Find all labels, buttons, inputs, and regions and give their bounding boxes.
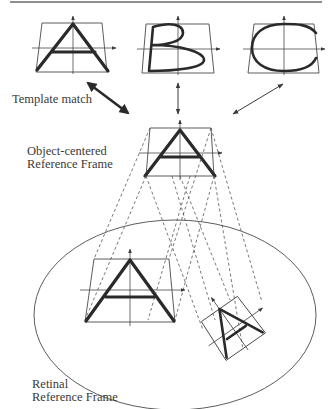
template-b [137,16,220,75]
object-centered-a [139,120,222,180]
retinal-frame-label: Retinal Reference Frame [32,378,118,404]
retinal-a-upright [80,249,185,326]
retinal-frame-label-line2: Reference Frame [32,391,118,404]
template-a [32,16,116,74]
rotated-a-vertical-axis-icon [211,298,248,350]
object-frame-label-line2: Reference Frame [27,158,113,171]
template-match-arrow-a[interactable] [88,83,128,113]
template-match-arrow-c[interactable] [233,84,283,114]
template-match-label: Template match [12,93,92,106]
template-c [243,16,325,75]
reference-frames-diagram [0,0,331,409]
template-a-glyph [37,24,108,71]
object-frame-label: Object-centered Reference Frame [27,145,113,171]
template-b-glyph [149,24,204,71]
template-a-frame [36,23,107,72]
